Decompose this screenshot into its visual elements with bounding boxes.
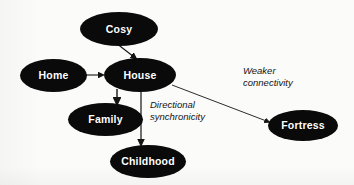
node-label-cosy: Cosy xyxy=(106,24,132,35)
node-label-family: Family xyxy=(88,114,122,125)
node-home[interactable]: Home xyxy=(20,59,87,92)
node-house[interactable]: House xyxy=(104,58,176,92)
node-childhood[interactable]: Childhood xyxy=(110,145,186,178)
node-label-fortress: Fortress xyxy=(281,120,325,131)
node-family[interactable]: Family xyxy=(68,103,143,136)
node-label-childhood: Childhood xyxy=(121,156,175,167)
node-cosy[interactable]: Cosy xyxy=(80,12,158,46)
diagram-canvas: Cosy Home House Family Childhood Fortres… xyxy=(0,0,354,185)
node-label-house: House xyxy=(123,70,156,81)
node-label-home: Home xyxy=(39,70,69,81)
node-fortress[interactable]: Fortress xyxy=(268,110,338,141)
edge-label-directional-synchronicity: Directional synchronicity xyxy=(150,99,205,123)
edge-label-weaker-connectivity: Weaker connectivity xyxy=(243,65,293,89)
